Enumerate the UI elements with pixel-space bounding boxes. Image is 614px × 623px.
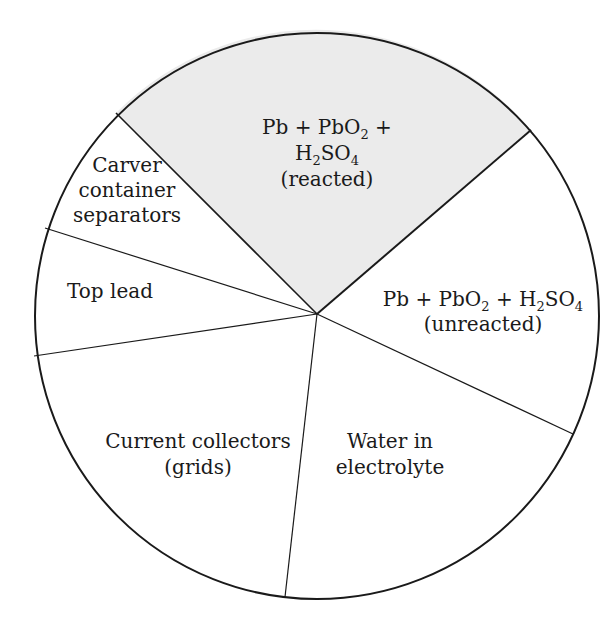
svg-text:separators: separators — [73, 203, 181, 227]
svg-text:Current collectors: Current collectors — [105, 429, 290, 453]
label-container: Carver container separators — [73, 153, 181, 227]
label-unreacted: Pb + PbO2 + H2SO4 (unreacted) — [383, 287, 583, 336]
svg-text:H2SO4: H2SO4 — [295, 141, 359, 168]
svg-text:Water in: Water in — [347, 429, 433, 453]
svg-text:Pb + PbO2 +: Pb + PbO2 + — [262, 115, 392, 142]
svg-text:(unreacted): (unreacted) — [424, 312, 543, 336]
pie-chart: Pb + PbO2 + H2SO4 (reacted) Pb + PbO2 + … — [0, 0, 614, 623]
svg-text:electrolyte: electrolyte — [336, 455, 444, 479]
svg-text:Pb + PbO2 + H2SO4: Pb + PbO2 + H2SO4 — [383, 287, 583, 314]
label-top-lead: Top lead — [67, 279, 153, 303]
svg-text:Top lead: Top lead — [67, 279, 153, 303]
svg-text:Carver: Carver — [92, 153, 162, 177]
svg-text:(grids): (grids) — [164, 455, 231, 479]
svg-text:(reacted): (reacted) — [281, 167, 374, 191]
label-grids: Current collectors (grids) — [105, 429, 290, 479]
divider-grids-toplead — [34, 314, 317, 356]
divider-water-grids — [285, 314, 317, 597]
svg-text:container: container — [79, 178, 176, 202]
label-water: Water in electrolyte — [336, 429, 444, 479]
